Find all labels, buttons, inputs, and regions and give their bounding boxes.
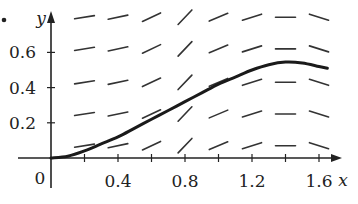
slope-segment — [242, 111, 261, 117]
axes — [18, 11, 342, 188]
slope-field-chart: 0.40.81.21.60.20.40.60xy — [0, 0, 358, 204]
x-axis-label: x — [338, 170, 348, 190]
slope-segment — [209, 110, 227, 118]
slope-segment — [309, 111, 328, 117]
y-axis-label: y — [35, 8, 46, 28]
y-tick-label: 0.4 — [9, 78, 36, 98]
slope-segment — [75, 47, 95, 50]
origin-label: 0 — [35, 168, 46, 188]
slope-segment — [142, 141, 160, 150]
slope-segment — [209, 13, 227, 21]
slope-segment — [142, 45, 160, 54]
slope-segment — [142, 13, 160, 22]
slope-segment — [178, 138, 192, 152]
slope-segment — [309, 143, 328, 149]
slope-segment — [178, 10, 192, 24]
x-tick-label: 1.6 — [305, 171, 332, 191]
slope-segment — [178, 42, 192, 56]
slope-segment — [209, 142, 227, 150]
slope-segment — [178, 107, 192, 121]
x-tick-label: 1.2 — [238, 171, 265, 191]
slope-segment — [108, 15, 128, 19]
slope-segment — [75, 16, 95, 19]
x-axis-arrow-icon — [331, 154, 342, 162]
slope-segment — [309, 79, 328, 85]
slope-segment — [242, 14, 261, 20]
problem-marker — [2, 18, 7, 23]
y-tick-label: 0.6 — [9, 42, 36, 62]
tick-labels: 0.40.81.21.60.20.40.60xy — [9, 8, 348, 191]
slope-segment — [142, 78, 160, 87]
slope-segment — [108, 47, 128, 51]
bullet-dot — [2, 18, 7, 23]
slope-segment — [242, 46, 261, 52]
slope-segment — [75, 112, 95, 115]
slope-segment — [209, 45, 227, 53]
slope-segment — [242, 79, 261, 85]
y-axis-arrow-icon — [47, 11, 55, 23]
x-tick-label: 0.8 — [171, 171, 198, 191]
slope-segment — [108, 144, 128, 148]
slope-segment — [178, 75, 192, 89]
slope-segment — [75, 81, 95, 84]
slope-segment — [108, 80, 128, 84]
x-tick-label: 0.4 — [104, 171, 131, 191]
slope-segment — [108, 112, 128, 116]
slope-field — [75, 10, 329, 153]
slope-segment — [309, 14, 328, 20]
slope-segment — [242, 143, 261, 149]
slope-segment — [309, 46, 328, 52]
y-tick-label: 0.2 — [9, 113, 36, 133]
